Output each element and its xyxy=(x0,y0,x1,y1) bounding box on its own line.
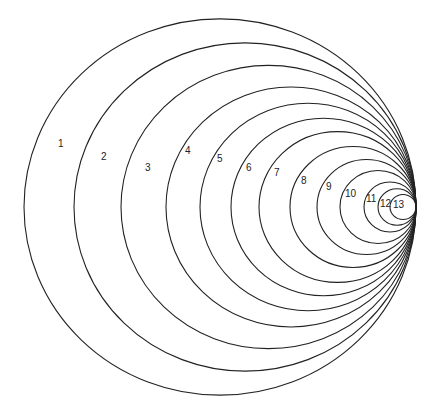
circle-label-9: 9 xyxy=(326,181,332,192)
diagram-canvas: 12345678910111213 xyxy=(0,0,433,414)
circle-label-12: 12 xyxy=(380,198,392,209)
circle-3 xyxy=(121,65,416,348)
circle-label-10: 10 xyxy=(345,188,357,199)
circle-label-5: 5 xyxy=(217,153,223,164)
circle-label-4: 4 xyxy=(185,145,191,156)
circle-label-13: 13 xyxy=(393,199,405,210)
circle-2 xyxy=(74,43,416,371)
circle-label-3: 3 xyxy=(145,162,151,173)
circle-label-7: 7 xyxy=(274,167,280,178)
circle-label-11: 11 xyxy=(366,193,377,204)
circle-label-1: 1 xyxy=(58,138,64,149)
circle-label-8: 8 xyxy=(301,175,307,186)
circle-label-6: 6 xyxy=(246,162,252,173)
tangent-circles-diagram: 12345678910111213 xyxy=(0,0,433,414)
circle-1 xyxy=(24,19,416,395)
circle-label-2: 2 xyxy=(101,151,107,162)
